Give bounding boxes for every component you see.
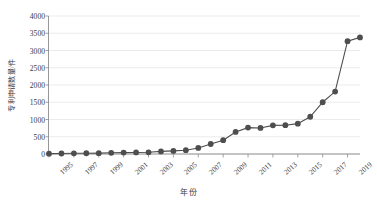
x-axis-tick-label: 2019 [356, 160, 373, 177]
x-axis-tick-label: 1999 [108, 160, 125, 177]
x-axis-tick-label: 2017 [331, 160, 348, 177]
x-axis-tick-label: 2009 [232, 160, 249, 177]
x-axis-tick-label: 2013 [282, 160, 299, 177]
x-axis-tick-label: 2007 [207, 160, 224, 177]
x-axis-tick-label: 1997 [83, 160, 100, 177]
x-axis-label: 年份 [0, 186, 377, 197]
x-axis-tick-label: 2015 [307, 160, 324, 177]
x-axis-tick-label: 2005 [182, 160, 199, 177]
x-axis-tick-label: 1995 [58, 160, 75, 177]
patent-application-line-chart: 专利申请数量/件 0500100015002000250030003500400… [0, 0, 377, 207]
x-axis-tick-label: 2003 [157, 160, 174, 177]
x-axis-tick-labels: 1995199719992001200320052007200920112013… [0, 0, 377, 207]
x-axis-tick-label: 2011 [257, 160, 274, 176]
x-axis-tick-label: 2001 [132, 160, 149, 177]
